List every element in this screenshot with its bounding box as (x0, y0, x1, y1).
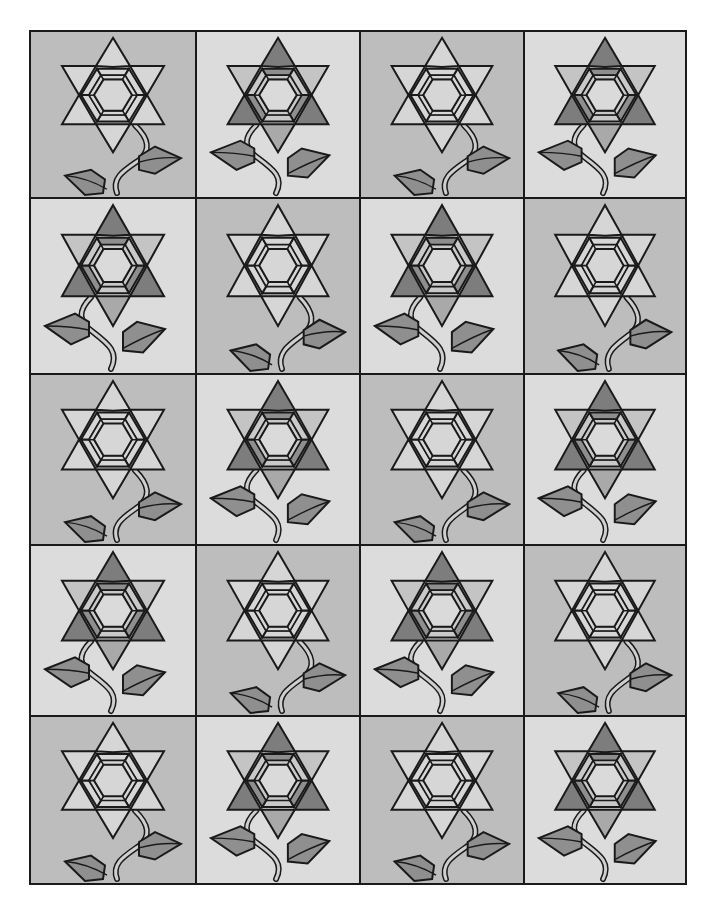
quilt-block-r1-c3 (361, 32, 525, 199)
flower-center (423, 249, 461, 282)
ring-segment (97, 584, 129, 591)
ring-segment (426, 584, 458, 591)
ring-segment (262, 413, 294, 420)
flower-center (586, 765, 623, 796)
flower-icon (197, 546, 359, 715)
flower-center (586, 595, 623, 627)
flower-icon (361, 32, 523, 197)
ring-segment (262, 69, 294, 76)
ring-segment (426, 800, 458, 807)
flower-icon (31, 717, 195, 883)
flower-center (423, 595, 461, 627)
ring-segment (262, 754, 294, 761)
quilt-block-r5-c2 (197, 717, 361, 883)
flower-center (586, 249, 623, 282)
quilt-block-r5-c1 (31, 717, 197, 883)
flower-center (259, 765, 297, 796)
flower-icon (197, 199, 359, 373)
ring-segment (589, 584, 620, 591)
flower-center (94, 595, 132, 627)
flower-center (94, 765, 132, 796)
ring-segment (426, 460, 458, 467)
ring-segment (589, 115, 620, 122)
quilt-block-r4-c1 (31, 546, 197, 717)
ring-segment (262, 631, 294, 638)
quilt-block-r3-c2 (197, 375, 361, 546)
flower-icon (525, 717, 685, 883)
ring-segment (97, 460, 129, 467)
flower-center (259, 79, 297, 110)
ring-segment (426, 286, 458, 293)
quilt-block-r4-c3 (361, 546, 525, 717)
ring-segment (426, 631, 458, 638)
ring-segment (262, 460, 294, 467)
ring-segment (97, 800, 129, 807)
ring-segment (589, 238, 620, 245)
quilt-block-r3-c4 (525, 375, 685, 546)
flower-center (94, 79, 132, 110)
ring-segment (97, 238, 129, 245)
flower-icon (361, 199, 523, 373)
ring-segment (589, 286, 620, 293)
quilt-block-r2-c3 (361, 199, 525, 375)
ring-segment (97, 115, 129, 122)
ring-segment (589, 69, 620, 76)
ring-segment (426, 238, 458, 245)
flower-icon (31, 32, 195, 197)
flower-center (94, 424, 132, 456)
quilt-block-r1-c1 (31, 32, 197, 199)
ring-segment (97, 754, 129, 761)
ring-segment (262, 800, 294, 807)
quilt-block-r2-c4 (525, 199, 685, 375)
ring-segment (262, 115, 294, 122)
flower-icon (361, 717, 523, 883)
ring-segment (97, 413, 129, 420)
quilt-block-r4-c2 (197, 546, 361, 717)
quilt-block-r3-c1 (31, 375, 197, 546)
flower-center (259, 595, 297, 627)
ring-segment (262, 286, 294, 293)
flower-center (94, 249, 132, 282)
ring-segment (589, 413, 620, 420)
flower-icon (197, 375, 359, 544)
flower-icon (197, 32, 359, 197)
ring-segment (589, 754, 620, 761)
ring-segment (589, 800, 620, 807)
quilt-grid (29, 30, 687, 885)
ring-segment (589, 460, 620, 467)
ring-segment (426, 413, 458, 420)
ring-segment (97, 631, 129, 638)
flower-center (259, 424, 297, 456)
flower-icon (525, 546, 685, 715)
flower-center (423, 424, 461, 456)
quilt-block-r5-c3 (361, 717, 525, 883)
flower-icon (197, 717, 359, 883)
flower-icon (31, 199, 195, 373)
flower-center (586, 79, 623, 110)
flower-icon (525, 375, 685, 544)
flower-icon (361, 375, 523, 544)
quilt-block-r1-c2 (197, 32, 361, 199)
flower-center (423, 765, 461, 796)
flower-center (423, 79, 461, 110)
ring-segment (97, 286, 129, 293)
flower-center (259, 249, 297, 282)
ring-segment (426, 115, 458, 122)
quilt-block-r4-c4 (525, 546, 685, 717)
flower-icon (31, 375, 195, 544)
quilt-block-r1-c4 (525, 32, 685, 199)
quilt-block-r2-c2 (197, 199, 361, 375)
ring-segment (262, 238, 294, 245)
ring-segment (262, 584, 294, 591)
flower-center (586, 424, 623, 456)
ring-segment (426, 69, 458, 76)
flower-icon (525, 32, 685, 197)
flower-icon (361, 546, 523, 715)
ring-segment (589, 631, 620, 638)
ring-segment (426, 754, 458, 761)
flower-icon (31, 546, 195, 715)
quilt-block-r3-c3 (361, 375, 525, 546)
flower-icon (525, 199, 685, 373)
quilt-block-r2-c1 (31, 199, 197, 375)
ring-segment (97, 69, 129, 76)
